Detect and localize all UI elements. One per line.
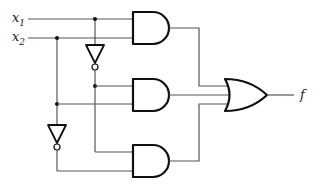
and-gate-1 [133, 12, 169, 44]
wire-and1-to-or [169, 28, 229, 86]
wire-and3-to-or [169, 104, 229, 161]
or-gate [225, 79, 267, 111]
and-gate-2 [133, 79, 169, 111]
not-gate-1 [86, 45, 104, 63]
junction-x1 [93, 17, 97, 21]
not-gate-2 [48, 125, 66, 143]
and-gate-3 [133, 145, 169, 177]
input-label-x2: x2 [12, 29, 25, 47]
not-gate-2-bubble [54, 144, 60, 150]
not-gate-1-bubble [92, 64, 98, 70]
logic-circuit-diagram: x1 x2 f [0, 0, 320, 191]
output-label-f: f [299, 87, 307, 102]
junction-x2 [55, 36, 59, 40]
input-label-x1: x1 [12, 10, 25, 28]
